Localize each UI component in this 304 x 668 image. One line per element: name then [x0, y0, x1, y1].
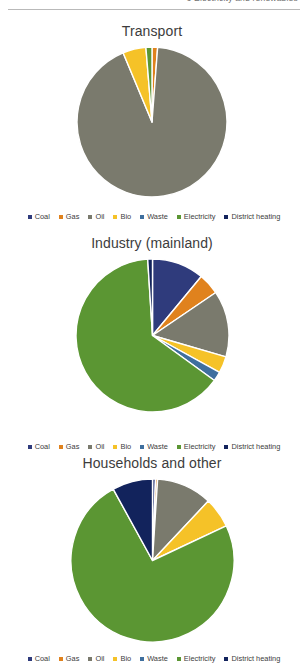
legend-item-bio[interactable]: Bio — [113, 442, 131, 451]
square-marker — [177, 445, 181, 449]
chart-block-households-and-other: Households and other — [0, 454, 304, 643]
legend-item-waste[interactable]: Waste — [140, 442, 168, 451]
pie-transport — [76, 46, 228, 198]
square-marker — [59, 445, 63, 449]
square-marker — [177, 657, 181, 661]
square-marker — [28, 215, 32, 219]
square-marker — [88, 657, 92, 661]
legend-item-coal[interactable]: Coal — [28, 654, 50, 663]
square-marker — [113, 215, 117, 219]
chart-title: Industry (mainland) — [0, 234, 304, 252]
legend-item-label: Bio — [120, 442, 131, 451]
chart-title: Households and other — [0, 454, 304, 472]
square-marker — [59, 657, 63, 661]
square-marker — [140, 657, 144, 661]
chart-legend: CoalGasOilBioWasteElectricityDistrict he… — [0, 654, 304, 663]
legend-item-label: Gas — [66, 212, 80, 221]
square-marker — [140, 445, 144, 449]
legend-item-label: Gas — [66, 442, 80, 451]
legend-item-electricity[interactable]: Electricity — [177, 212, 216, 221]
legend-item-waste[interactable]: Waste — [140, 654, 168, 663]
chart-title: Transport — [0, 22, 304, 40]
legend-item-label: Gas — [66, 654, 80, 663]
square-marker — [224, 657, 228, 661]
legend-item-label: Bio — [120, 212, 131, 221]
square-marker — [88, 445, 92, 449]
legend-item-district-heating[interactable]: District heating — [224, 654, 280, 663]
legend-item-label: Oil — [95, 212, 104, 221]
square-marker — [224, 445, 228, 449]
legend-item-label: Waste — [147, 442, 168, 451]
running-header-text: 6 Electricity and renewables — [187, 0, 298, 3]
square-marker — [224, 215, 228, 219]
legend-item-oil[interactable]: Oil — [88, 442, 104, 451]
legend-item-electricity[interactable]: Electricity — [177, 442, 216, 451]
legend-item-label: Electricity — [184, 654, 216, 663]
legend-item-district-heating[interactable]: District heating — [224, 442, 280, 451]
header-divider — [8, 9, 300, 10]
legend-item-label: District heating — [231, 442, 280, 451]
square-marker — [59, 215, 63, 219]
legend-item-label: District heating — [231, 654, 280, 663]
square-marker — [113, 657, 117, 661]
legend-item-oil[interactable]: Oil — [88, 212, 104, 221]
legend-item-gas[interactable]: Gas — [59, 654, 80, 663]
square-marker — [88, 215, 92, 219]
legend-item-bio[interactable]: Bio — [113, 212, 131, 221]
pie-chart-transport — [76, 46, 228, 198]
square-marker — [113, 445, 117, 449]
pie-chart-households-and-other — [70, 478, 235, 643]
chart-legend: CoalGasOilBioWasteElectricityDistrict he… — [0, 212, 304, 221]
chart-legend: CoalGasOilBioWasteElectricityDistrict he… — [0, 442, 304, 451]
legend-item-label: Bio — [120, 654, 131, 663]
legend-item-district-heating[interactable]: District heating — [224, 212, 280, 221]
legend-item-label: Electricity — [184, 442, 216, 451]
running-header: 6 Electricity and renewables — [0, 0, 304, 11]
square-marker — [28, 445, 32, 449]
legend-item-label: Coal — [35, 442, 50, 451]
legend-item-bio[interactable]: Bio — [113, 654, 131, 663]
legend-item-label: Oil — [95, 654, 104, 663]
legend-item-coal[interactable]: Coal — [28, 442, 50, 451]
square-marker — [177, 215, 181, 219]
pie-chart-industry-mainland — [75, 258, 230, 413]
pie-households-and-other — [70, 478, 235, 643]
chart-block-transport: Transport — [0, 22, 304, 198]
legend-item-label: Electricity — [184, 212, 216, 221]
legend-item-label: Coal — [35, 212, 50, 221]
legend-item-oil[interactable]: Oil — [88, 654, 104, 663]
legend-item-gas[interactable]: Gas — [59, 212, 80, 221]
square-marker — [140, 215, 144, 219]
chart-block-industry-mainland: Industry (mainland) — [0, 234, 304, 413]
page-root: 6 Electricity and renewables TransportCo… — [0, 0, 304, 668]
legend-item-label: Waste — [147, 654, 168, 663]
square-marker — [28, 657, 32, 661]
legend-item-electricity[interactable]: Electricity — [177, 654, 216, 663]
legend-item-waste[interactable]: Waste — [140, 212, 168, 221]
legend-item-label: Waste — [147, 212, 168, 221]
legend-item-label: District heating — [231, 212, 280, 221]
legend-item-label: Coal — [35, 654, 50, 663]
pie-industry-mainland — [75, 258, 230, 413]
legend-item-gas[interactable]: Gas — [59, 442, 80, 451]
legend-item-coal[interactable]: Coal — [28, 212, 50, 221]
legend-item-label: Oil — [95, 442, 104, 451]
